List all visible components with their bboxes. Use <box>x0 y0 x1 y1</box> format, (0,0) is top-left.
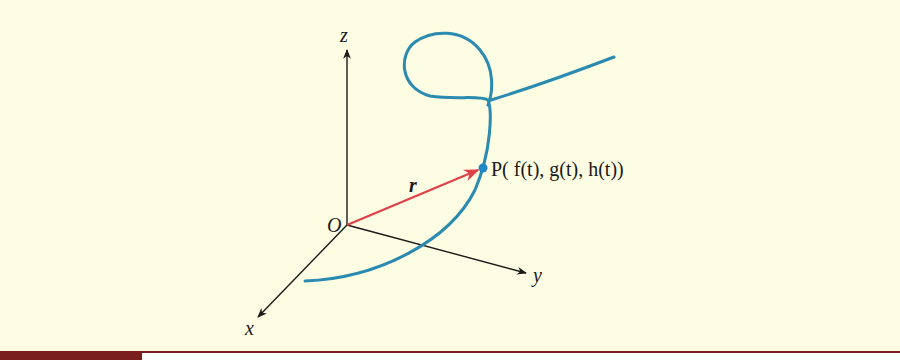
y-axis-label: y <box>531 264 542 287</box>
vector-r-label: r <box>409 174 417 196</box>
space-curve <box>305 33 492 281</box>
origin-label: O <box>327 214 341 236</box>
z-axis-label: z <box>339 24 348 46</box>
x-axis <box>258 225 347 317</box>
y-axis <box>347 225 526 273</box>
x-axis-label: x <box>244 317 254 339</box>
footer-block <box>0 351 142 360</box>
space-curve-diagram: z y x O r P( f(t), g(t), h(t)) <box>0 0 900 360</box>
point-p <box>479 164 488 173</box>
space-curve-tail <box>491 57 614 100</box>
point-p-label: P( f(t), g(t), h(t)) <box>491 158 624 181</box>
